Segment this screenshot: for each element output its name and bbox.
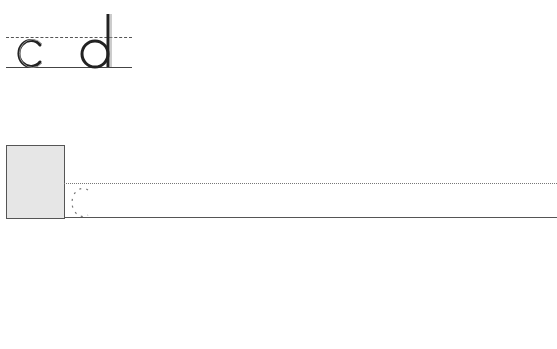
practice-midline-dotted [64, 183, 557, 184]
start-box [6, 145, 65, 219]
letter-c-d-glyphs [0, 0, 140, 80]
letter-d-bowl-icon [82, 41, 108, 67]
example-letters [0, 0, 140, 80]
practice-baseline [64, 217, 557, 218]
trace-letter-c-icon [68, 184, 98, 220]
